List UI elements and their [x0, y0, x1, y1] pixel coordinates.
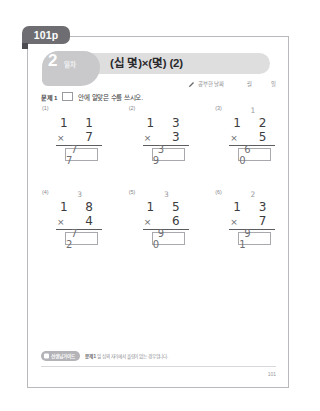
problem-cell-6: (6) 2 1 3 × 7 9 1 [201, 189, 288, 273]
multiplier: 6 [172, 214, 187, 228]
multiplier: 7 [259, 214, 274, 228]
multiplier: 3 [172, 130, 187, 144]
carry-row: 2 [229, 189, 275, 200]
multiplier-row: × 5 [229, 130, 275, 144]
multiplier-row: × 6 [143, 214, 189, 228]
multiplicand: 1 8 [56, 200, 102, 214]
day-number: 2 [48, 52, 57, 69]
multiplier-row: × 3 [143, 130, 189, 144]
worksheet-sheet: 2 일차 (십 몇)×(몇) (2) 공부한 날짜 월 일 문제 1 안에 알맞… [27, 36, 289, 388]
pencil-icon [188, 81, 195, 88]
multiply-operator: × [143, 215, 152, 229]
carry-row: 1 [229, 105, 275, 116]
vertical-calculation: 3 1 5 × 6 9 0 [143, 189, 189, 245]
footer-note: 선생님 가이드 문제 1 일 십의 자리에서 올림이 없는 경우입니다. [41, 351, 168, 361]
vertical-calculation: 2 1 3 × 7 9 1 [229, 189, 275, 245]
multiply-operator: × [229, 215, 238, 229]
problem-number: (6) [215, 189, 222, 195]
answer-box[interactable]: 3 9 [152, 148, 185, 161]
problem-number: (2) [129, 105, 136, 111]
instruction-blank-box [62, 92, 73, 101]
multiplicand: 1 1 [56, 116, 102, 130]
problem-cell-2: (2) 1 3 × 3 3 9 [115, 105, 202, 189]
page-title: (십 몇)×(몇) (2) [110, 54, 183, 70]
multiplicand: 1 3 [229, 200, 275, 214]
vertical-calculation: 1 1 × 7 7 7 [56, 105, 102, 161]
carry-digit: 2 [251, 189, 256, 200]
day-unit-label: 일 [271, 80, 276, 88]
instruction-text: 안에 알맞은 수를 쓰시오. [78, 92, 143, 102]
study-date-label: 공부한 날짜 [198, 80, 224, 88]
carry-digit: 3 [77, 189, 82, 200]
page-tab[interactable]: 101p [22, 26, 70, 44]
page-tab-label: 101p [34, 29, 59, 41]
multiplier-row: × 4 [56, 214, 102, 228]
footer-note-prefix: 문제 1 [85, 354, 96, 359]
page-tab-notch [22, 43, 28, 49]
multiply-operator: × [229, 131, 238, 145]
problem-grid: (1) 1 1 × 7 7 7 (2) 1 3 [28, 105, 288, 273]
teacher-guide-badge: 선생님 가이드 [41, 351, 80, 361]
study-date-row: 공부한 날짜 월 일 [188, 80, 276, 88]
multiplier: 5 [259, 130, 274, 144]
problem-number: (3) [215, 105, 222, 111]
vertical-calculation: 1 1 2 × 5 6 0 [229, 105, 275, 161]
multiply-operator: × [56, 215, 65, 229]
problem-number: (1) [42, 105, 49, 111]
answer-box[interactable]: 7 2 [65, 232, 98, 245]
carry-row: 3 [56, 189, 102, 200]
footer-divider [41, 366, 276, 367]
footer-note-text: 문제 1 일 십의 자리에서 올림이 없는 경우입니다. [85, 353, 168, 359]
answer-box[interactable]: 6 0 [238, 148, 271, 161]
instruction-tag: 문제 1 [41, 93, 57, 102]
multiplier-row: × 7 [229, 214, 275, 228]
multiplicand: 1 5 [143, 200, 189, 214]
carry-row: 3 [143, 189, 189, 200]
instruction-row: 문제 1 안에 알맞은 수를 쓰시오. [41, 91, 143, 102]
problem-number: (5) [129, 189, 136, 195]
month-label: 월 [247, 80, 252, 88]
carry-row [56, 105, 102, 116]
problem-cell-1: (1) 1 1 × 7 7 7 [28, 105, 115, 189]
page-number: 101 [268, 371, 276, 377]
problem-number: (4) [42, 189, 49, 195]
carry-row [143, 105, 189, 116]
answer-box[interactable]: 9 0 [152, 232, 185, 245]
multiplicand: 1 3 [143, 116, 189, 130]
multiplier: 4 [85, 214, 100, 228]
problem-row-2: (4) 3 1 8 × 4 7 2 (5) 3 1 5 [28, 189, 288, 273]
multiplier: 7 [85, 130, 100, 144]
answer-box[interactable]: 9 1 [238, 232, 271, 245]
vertical-calculation: 1 3 × 3 3 9 [143, 105, 189, 161]
footer-note-body: 일 십의 자리에서 올림이 없는 경우입니다. [97, 354, 168, 359]
multiply-operator: × [56, 131, 65, 145]
problem-cell-5: (5) 3 1 5 × 6 9 0 [115, 189, 202, 273]
multiply-operator: × [143, 131, 152, 145]
problem-row-1: (1) 1 1 × 7 7 7 (2) 1 3 [28, 105, 288, 189]
answer-box[interactable]: 7 7 [65, 148, 98, 161]
carry-digit: 3 [164, 189, 169, 200]
vertical-calculation: 3 1 8 × 4 7 2 [56, 189, 102, 245]
multiplier-row: × 7 [56, 130, 102, 144]
day-label: 일차 [64, 59, 76, 69]
problem-cell-4: (4) 3 1 8 × 4 7 2 [28, 189, 115, 273]
problem-cell-3: (3) 1 1 2 × 5 6 0 [201, 105, 288, 189]
multiplicand: 1 2 [229, 116, 275, 130]
carry-digit: 1 [251, 105, 256, 116]
